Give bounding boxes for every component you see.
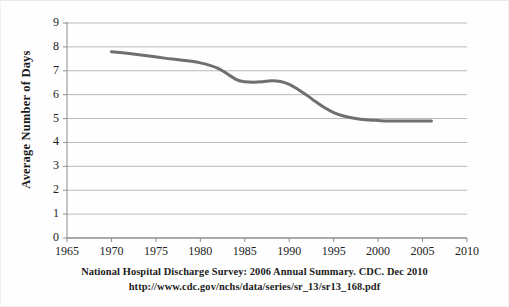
x-tick-label-1975: 1975	[136, 244, 176, 259]
y-tick-label-4: 4	[45, 134, 59, 149]
line-chart: Average Number of Days 0123456789 196519…	[0, 0, 509, 265]
series-line-average-days	[111, 52, 431, 121]
figure-caption: National Hospital Discharge Survey: 2006…	[0, 264, 509, 294]
caption-line-1: National Hospital Discharge Survey: 2006…	[0, 264, 509, 279]
y-tick-label-8: 8	[45, 39, 59, 54]
x-tick-label-2000: 2000	[358, 244, 398, 259]
x-tick-label-1970: 1970	[91, 244, 131, 259]
x-tick-label-1990: 1990	[269, 244, 309, 259]
gridlines-group	[67, 23, 467, 238]
y-tick-label-6: 6	[45, 87, 59, 102]
y-tick-label-1: 1	[45, 206, 59, 221]
y-tick-label-7: 7	[45, 63, 59, 78]
x-tick-label-1965: 1965	[47, 244, 87, 259]
y-axis-title: Average Number of Days	[19, 20, 34, 220]
x-tick-marks-group	[67, 238, 467, 242]
y-tick-label-5: 5	[45, 111, 59, 126]
y-axis-group	[63, 22, 67, 238]
caption-line-2: http://www.cdc.gov/nchs/data/series/sr_1…	[0, 279, 509, 294]
y-tick-label-0: 0	[45, 230, 59, 245]
figure-root: Average Number of Days 0123456789 196519…	[0, 0, 509, 307]
x-tick-label-1980: 1980	[180, 244, 220, 259]
x-tick-label-1985: 1985	[225, 244, 265, 259]
chart-plot-svg	[0, 0, 509, 265]
data-series-group	[111, 52, 431, 121]
y-tick-label-3: 3	[45, 158, 59, 173]
y-tick-label-9: 9	[45, 15, 59, 30]
x-tick-label-1995: 1995	[314, 244, 354, 259]
x-tick-label-2005: 2005	[403, 244, 443, 259]
y-tick-label-2: 2	[45, 182, 59, 197]
x-tick-label-2010: 2010	[447, 244, 487, 259]
